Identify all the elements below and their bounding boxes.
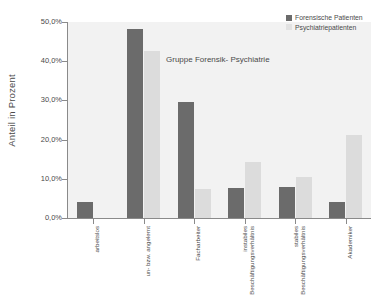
x-axis-tick-label-line: stabiles [292,226,299,298]
y-axis-tick-mark [62,140,67,141]
plot-area [68,22,371,218]
x-axis-tick-label: Akademiker [346,226,353,298]
x-axis-tick-label-line: Beschäftigungsverhältnis [299,226,306,298]
bar-psychiatriepatienten [144,51,160,218]
y-axis-tick-label: 40,0% [0,56,62,65]
bar-psychiatriepatienten [195,189,211,218]
bar-psychiatriepatienten [245,162,261,218]
x-axis-line [67,218,371,219]
x-axis-tick-label-line: Akademiker [346,226,353,298]
x-axis-tick-mark [93,219,94,224]
y-axis-tick-mark [62,179,67,180]
x-axis-tick-mark [245,219,246,224]
x-axis-tick-label-line: arbeitslos [93,226,100,298]
y-axis-tick-label: 30,0% [0,95,62,104]
bar-forensische-patienten [178,102,194,218]
y-axis-tick-label: 10,0% [0,174,62,183]
x-axis-tick-mark [144,219,145,224]
y-axis-tick-mark [62,218,67,219]
x-axis-tick-label: arbeitslos [93,226,100,298]
bar-psychiatriepatienten [346,135,362,218]
bar-psychiatriepatienten [296,177,312,218]
x-axis-tick-label-line: Facharbeiter [194,226,201,298]
x-axis-tick-label: un- bzw. angelernt [144,226,151,298]
chart-legend: Forensische PatientenPsychiatriepatiente… [286,13,363,32]
y-axis-line [67,22,68,219]
y-axis-title: Anteil in Prozent [6,51,17,171]
x-axis-tick-label-line: un- bzw. angelernt [144,226,151,298]
bar-chart-figure: Anteil in Prozent 50,0%40,0%30,0%20,0%10… [0,0,375,301]
x-axis-tick-label: Facharbeiter [194,226,201,298]
x-axis-tick-mark [346,219,347,224]
x-axis-tick-label: stabilesBeschäftigungsverhältnis [292,226,306,298]
bar-forensische-patienten [127,29,143,218]
y-axis-tick-label: 50,0% [0,17,62,26]
legend-swatch-icon [286,15,292,21]
y-axis-tick-mark [62,100,67,101]
y-axis-tick-label: 20,0% [0,135,62,144]
legend-swatch-icon [286,24,292,30]
x-axis-tick-label-line: Beschäftigungsverhältnis [248,226,255,298]
x-axis-tick-mark [194,219,195,224]
chart-annotation: Gruppe Forensik- Psychiatrie [166,55,270,64]
y-axis-tick-mark [62,61,67,62]
bar-forensische-patienten [77,202,93,218]
legend-item: Forensische Patienten [286,13,363,23]
x-axis-tick-label: instabilesBeschäftigungsverhältnis [241,226,255,298]
bar-forensische-patienten [228,188,244,218]
y-axis-tick-mark [62,22,67,23]
bar-forensische-patienten [329,202,345,218]
bar-forensische-patienten [279,187,295,218]
legend-item: Psychiatriepatienten [286,23,363,33]
legend-item-label: Psychiatriepatienten [295,23,356,33]
y-axis-tick-label: 0,0% [0,213,62,222]
x-axis-tick-mark [295,219,296,224]
legend-item-label: Forensische Patienten [295,13,363,23]
